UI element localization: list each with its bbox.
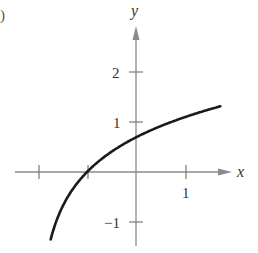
x-axis-label: x [236,163,244,180]
y-tick-label-1: 1 [113,115,121,131]
panel-label: ) [0,7,5,24]
y-axis-label: y [129,2,139,20]
chart-canvas: ) 2 1 −1 1 x y [0,0,258,253]
x-axis-arrow-icon [218,169,232,176]
y-tick-label-2: 2 [112,65,120,81]
x-tick-label-1: 1 [182,185,190,201]
x-axis [15,169,232,176]
y-axis-arrow-icon [133,26,140,40]
y-tick-label-neg1: −1 [104,215,120,231]
